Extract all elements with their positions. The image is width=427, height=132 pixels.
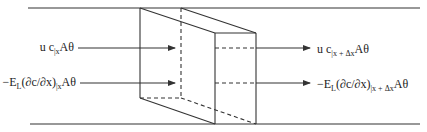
label-prefix: u c: [40, 40, 54, 54]
label-prefix: −E: [2, 75, 16, 89]
label-gradient: (∂c/∂x): [21, 75, 56, 89]
label-subscript: |x + Δx: [371, 84, 394, 93]
bottom-left-depth-edge: [140, 98, 215, 124]
inflow-advection-label: u c|xAθ: [20, 40, 74, 59]
outflow-advection-label: u c|x + ΔxAθ: [317, 42, 369, 61]
control-volume-diagram: [0, 0, 427, 132]
diagram-canvas: u c|xAθ −EL(∂c/∂x)|xAθ u c|x + ΔxAθ −EL(…: [0, 0, 427, 132]
label-suffix: Aθ: [355, 42, 369, 56]
label-prefix: −E: [317, 77, 331, 91]
label-suffix: Aθ: [394, 77, 408, 91]
label-suffix: Aθ: [62, 75, 76, 89]
top-left-depth-edge: [140, 8, 215, 33]
label-subscript: |x + Δx: [331, 49, 354, 58]
inflow-dispersion-label: −EL(∂c/∂x)|xAθ: [0, 75, 76, 94]
label-gradient: (∂c/∂x): [336, 77, 371, 91]
bottom-right-depth-edge: [181, 98, 256, 124]
outflow-dispersion-label: −EL(∂c/∂x)|x + ΔxAθ: [317, 77, 408, 96]
top-right-depth-edge: [181, 8, 256, 33]
label-suffix: Aθ: [60, 40, 74, 54]
label-prefix: u c: [317, 42, 331, 56]
